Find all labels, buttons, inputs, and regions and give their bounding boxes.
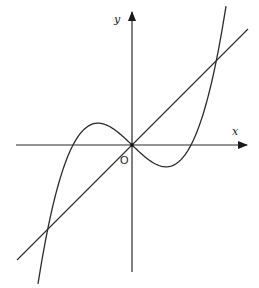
function-graph <box>0 0 259 288</box>
origin-label: O <box>120 155 129 166</box>
origin-point <box>130 143 134 147</box>
x-axis-label: x <box>232 126 238 137</box>
y-axis-label: y <box>114 14 120 25</box>
